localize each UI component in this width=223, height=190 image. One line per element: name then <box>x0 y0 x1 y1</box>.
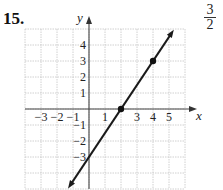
x-axis-label: x <box>195 108 202 123</box>
data-point <box>118 106 124 112</box>
axes <box>25 16 197 189</box>
y-axis-arrow-icon <box>86 16 92 24</box>
y-tick-label: −2 <box>73 134 86 148</box>
y-tick-label: −1 <box>73 118 86 132</box>
x-tick-label: 3 <box>134 110 140 124</box>
y-axis-label: y <box>75 10 83 25</box>
x-tick-label: 1 <box>102 110 108 124</box>
y-tick-label: 3 <box>80 54 86 68</box>
x-tick-label: −2 <box>51 110 64 124</box>
data-point <box>150 58 156 64</box>
x-tick-label: 5 <box>166 110 172 124</box>
y-tick-label: 4 <box>80 38 86 52</box>
y-tick-label: 1 <box>80 86 86 100</box>
coordinate-plane: xy−3−2−113454321−1−2−3 <box>0 0 223 190</box>
x-tick-label: −3 <box>35 110 48 124</box>
y-tick-label: 2 <box>80 70 86 84</box>
x-tick-label: 4 <box>150 110 156 124</box>
y-tick-label: −3 <box>73 150 86 164</box>
